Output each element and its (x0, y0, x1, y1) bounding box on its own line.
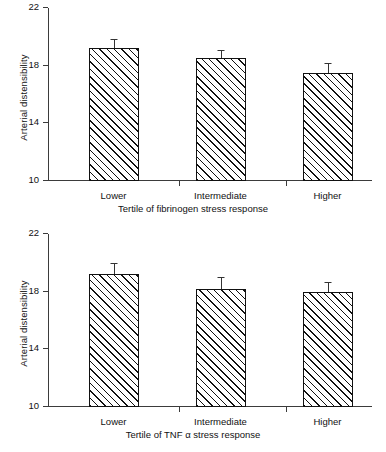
error-bar-cap (110, 39, 117, 40)
x-axis-tick (179, 181, 180, 186)
bar-lower (89, 274, 139, 407)
x-axis-title: Tertile of fibrinogen stress response (0, 203, 386, 214)
y-axis-tick-label: 18 (28, 59, 39, 70)
error-bar (221, 51, 222, 59)
y-axis-tick: 14 (43, 348, 48, 349)
x-axis-category-label: Lower (101, 416, 127, 427)
x-axis-tick (286, 181, 287, 186)
x-axis-category-label: Higher (314, 190, 342, 201)
y-axis-tick: 22 (43, 7, 48, 8)
x-axis-title: Tertile of TNF α stress response (0, 429, 386, 440)
x-axis-tick (179, 407, 180, 412)
bar-higher (303, 73, 353, 181)
error-bar (328, 64, 329, 73)
error-bar (114, 40, 115, 48)
y-axis-tick: 18 (43, 65, 48, 66)
x-axis-category-label: Higher (314, 416, 342, 427)
x-axis-category-label: Intermediate (194, 416, 247, 427)
y-axis-tick: 18 (43, 291, 48, 292)
x-axis-category-label: Intermediate (194, 190, 247, 201)
y-axis-tick: 10 (43, 180, 48, 181)
y-axis-tick-label: 14 (28, 342, 39, 353)
error-bar (328, 283, 329, 292)
y-axis-line (48, 234, 49, 407)
error-bar-cap (324, 63, 331, 64)
y-axis-tick-label: 14 (28, 116, 39, 127)
error-bar-cap (110, 263, 117, 264)
chart-panel-fibrinogen: Arterial distensibility 10141822LowerInt… (0, 0, 386, 226)
bar-higher (303, 292, 353, 407)
y-axis-tick-label: 22 (28, 1, 39, 12)
plot-area: 10141822LowerIntermediateHigher (48, 234, 372, 407)
y-axis-tick-label: 10 (28, 174, 39, 185)
bar-lower (89, 48, 139, 181)
bar-intermediate (196, 58, 246, 181)
error-bar (114, 264, 115, 275)
y-axis-tick-label: 22 (28, 227, 39, 238)
plot-area: 10141822LowerIntermediateHigher (48, 8, 372, 181)
y-axis-tick-label: 10 (28, 400, 39, 411)
x-axis-tick (286, 407, 287, 412)
y-axis-title: Arterial distensibility (18, 249, 29, 399)
error-bar-cap (217, 277, 224, 278)
figure-bar-charts: Arterial distensibility 10141822LowerInt… (0, 0, 386, 452)
y-axis-tick: 22 (43, 233, 48, 234)
y-axis-line (48, 8, 49, 181)
error-bar-cap (217, 50, 224, 51)
y-axis-tick: 10 (43, 406, 48, 407)
x-axis-category-label: Lower (101, 190, 127, 201)
bar-intermediate (196, 289, 246, 407)
chart-panel-tnf-alpha: Arterial distensibility 10141822LowerInt… (0, 226, 386, 452)
y-axis-tick: 14 (43, 122, 48, 123)
y-axis-title: Arterial distensibility (18, 23, 29, 173)
error-bar-cap (324, 282, 331, 283)
error-bar (221, 278, 222, 289)
y-axis-tick-label: 18 (28, 285, 39, 296)
